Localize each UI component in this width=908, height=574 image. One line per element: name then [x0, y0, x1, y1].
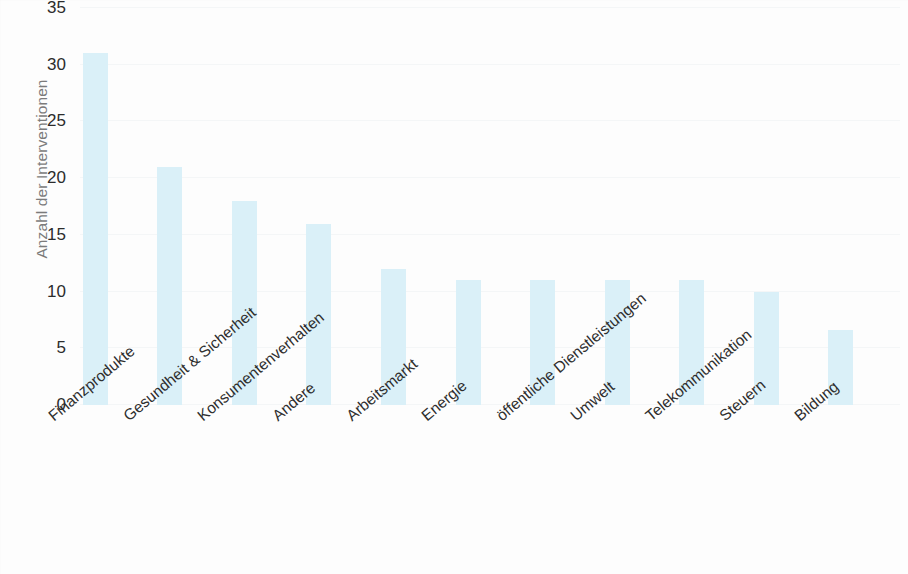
y-tick-label: 5 [57, 338, 66, 358]
gridline [80, 120, 900, 121]
gridline [80, 177, 900, 178]
y-tick-label: 20 [47, 168, 66, 188]
gridline [80, 7, 900, 8]
y-tick-label: 25 [47, 111, 66, 131]
y-tick-label: 15 [47, 225, 66, 245]
y-tick-label: 10 [47, 282, 66, 302]
bar-chart-figure: Anzahl der Interventionen 05101520253035… [0, 0, 908, 574]
y-tick-label: 30 [47, 55, 66, 75]
gridline [80, 64, 900, 65]
bar[interactable] [83, 53, 108, 405]
gridline [80, 234, 900, 235]
y-tick-label: 35 [47, 0, 66, 18]
x-axis-tick-labels: FinanzprodukteGesundheit & SicherheitKon… [80, 405, 900, 574]
